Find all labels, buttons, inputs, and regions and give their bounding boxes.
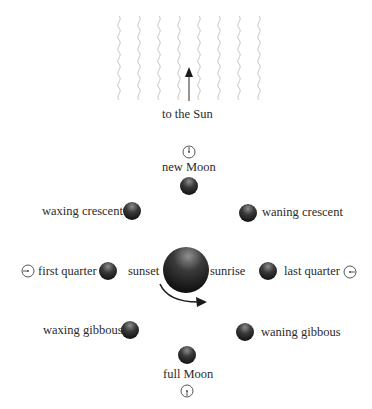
sun-direction-arrow-icon	[185, 67, 193, 101]
earth-globe	[163, 247, 209, 293]
phase-label-waxing-crescent: waxing crescent	[42, 204, 123, 218]
clock-icon-6am	[344, 266, 356, 278]
phase-label-waning-gibbous: waning gibbous	[261, 325, 341, 339]
moon-waxing-crescent	[123, 202, 141, 220]
phase-label-first-quarter: first quarter	[38, 264, 97, 278]
phase-label-waning-crescent: waning crescent	[262, 205, 343, 219]
phase-label-full-moon: full Moon	[163, 367, 213, 381]
phase-label-waxing-gibbous: waxing gibbous	[43, 323, 123, 337]
clock-icon-midnight	[181, 385, 193, 397]
phase-label-last-quarter: last quarter	[284, 264, 340, 278]
moon-first-quarter	[99, 262, 117, 280]
sun-label: to the Sun	[162, 107, 213, 121]
moon-waxing-gibbous	[121, 321, 139, 339]
moon-last-quarter	[259, 262, 277, 280]
moon-full	[178, 346, 196, 364]
clock-icon-noon	[183, 146, 195, 158]
moon-waning-crescent	[239, 204, 257, 222]
phase-label-new-moon: new Moon	[162, 160, 216, 174]
moon-new	[180, 177, 198, 195]
moon-waning-gibbous	[236, 323, 254, 341]
clock-icon-6pm	[22, 265, 34, 277]
earth-label-sunrise: sunrise	[210, 264, 245, 278]
earth-label-sunset: sunset	[128, 264, 159, 278]
